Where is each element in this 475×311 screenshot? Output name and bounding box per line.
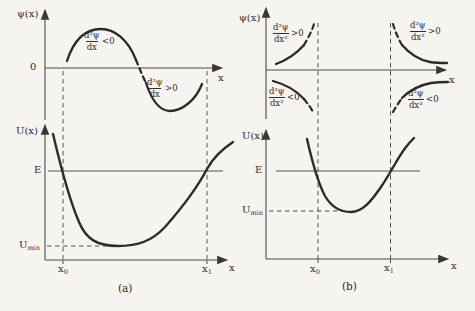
figure-wavefunction-curvature-vs-potential: ψ(x) 0 x d²ψ dx <0 d²ψ dx >0 U(x) E Umin…	[0, 0, 475, 311]
x0-subscript: 0	[316, 268, 320, 276]
x0-label-a: x0	[58, 264, 68, 276]
inequality-sign: >0	[291, 29, 304, 38]
x1-subscript: 1	[390, 267, 394, 275]
origin-zero-label-a: 0	[30, 62, 36, 72]
second-derivative-negative-lower-left-label-b: d²ψ dx² <0	[268, 87, 300, 107]
x1-label-b: x1	[384, 263, 394, 275]
figure-canvas	[0, 0, 475, 311]
x0-subscript: 0	[64, 268, 68, 276]
fraction-numerator: d²ψ	[409, 21, 427, 31]
psi-branch-lower-right-dashed-b	[393, 98, 402, 112]
derivative-fraction: d²ψ dx²	[268, 87, 286, 107]
umin-label-b: Umin	[242, 205, 263, 217]
umin-subscript: min	[27, 244, 39, 252]
inequality-sign: >0	[165, 84, 178, 93]
umin-label-a: Umin	[19, 240, 40, 252]
x1-subscript: 1	[208, 268, 212, 276]
energy-label-b: E	[255, 165, 262, 175]
psi-axis-label-a: ψ(x)	[17, 9, 38, 19]
energy-label-a: E	[34, 165, 41, 175]
fraction-numerator: d²ψ	[146, 78, 164, 88]
psi-branch-upper-left-dashed-b	[304, 24, 314, 45]
caption-b: (b)	[342, 281, 357, 292]
u-x-axis-label-a: x	[229, 263, 235, 273]
second-derivative-positive-upper-right-label-b: d²ψ dx² >0	[409, 21, 441, 41]
caption-a: (a)	[118, 283, 132, 294]
derivative-fraction: d²ψ dx	[83, 31, 101, 51]
potential-curve-a	[53, 134, 233, 246]
x0-label-b: x0	[310, 264, 320, 276]
fraction-numerator: d²ψ	[268, 87, 286, 97]
psi-branch-upper-right-solid-b	[402, 45, 447, 63]
fraction-numerator: d²ψ	[83, 31, 101, 41]
inequality-sign: <0	[102, 37, 115, 46]
psi-branch-upper-left-solid-b	[276, 45, 304, 64]
u-x-axis-label-b: x	[451, 261, 457, 271]
psi-branch-lower-left-dashed-b	[304, 99, 313, 112]
derivative-fraction: d²ψ dx²	[409, 21, 427, 41]
inequality-sign: <0	[426, 95, 439, 104]
x1-label-a: x1	[202, 264, 212, 276]
potential-curve-b	[307, 138, 414, 212]
u-axis-label-a: U(x)	[16, 126, 38, 136]
fraction-denominator: dx²	[408, 99, 424, 110]
fraction-denominator: dx	[86, 41, 98, 52]
second-derivative-negative-label-a: d²ψ dx <0	[83, 31, 115, 51]
fraction-denominator: dx²	[273, 33, 289, 44]
second-derivative-negative-lower-right-label-b: d²ψ dx² <0	[407, 89, 439, 109]
fraction-denominator: dx²	[269, 97, 285, 108]
psi-x-axis-label-a: x	[218, 73, 224, 83]
fraction-numerator: d²ψ	[407, 89, 425, 99]
psi-axis-label-b: ψ(x)	[239, 13, 260, 23]
umin-subscript: min	[250, 209, 262, 217]
psi-x-axis-label-b: x	[449, 75, 455, 85]
psi-transition-dashed-a	[136, 60, 146, 83]
fraction-denominator: dx²	[410, 31, 426, 42]
derivative-fraction: d²ψ dx	[146, 78, 164, 98]
derivative-fraction: d²ψ dx²	[272, 23, 290, 43]
inequality-sign: >0	[428, 27, 441, 36]
fraction-denominator: dx	[149, 88, 161, 99]
u-axis-label-b: U(x)	[242, 131, 264, 141]
derivative-fraction: d²ψ dx²	[407, 89, 425, 109]
inequality-sign: <0	[287, 93, 300, 102]
second-derivative-positive-label-a: d²ψ dx >0	[146, 78, 178, 98]
second-derivative-positive-upper-left-label-b: d²ψ dx² >0	[272, 23, 304, 43]
psi-branch-upper-right-dashed-b	[393, 24, 402, 45]
fraction-numerator: d²ψ	[272, 23, 290, 33]
